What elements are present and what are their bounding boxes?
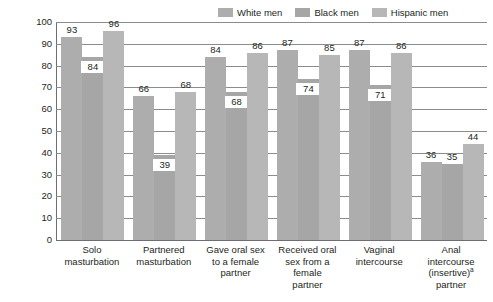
x-axis-category-label: Solomasturbation bbox=[56, 244, 128, 267]
x-axis-category-label: Partneredmasturbation bbox=[128, 244, 200, 267]
bar bbox=[205, 57, 226, 240]
category-label-line: Gave oral sex bbox=[200, 244, 272, 256]
legend-label-hispanic-men: Hispanic men bbox=[391, 8, 449, 18]
x-axis-category-labels: SolomasturbationPartneredmasturbationGav… bbox=[56, 244, 487, 302]
y-tick-label-30: 30 bbox=[41, 170, 52, 180]
bar-group: 877485 bbox=[277, 22, 340, 240]
gridline-0 bbox=[56, 240, 487, 241]
bar-series-layer: 938496663968846886877485877186363544 bbox=[57, 22, 487, 240]
legend-swatch-hispanic-men bbox=[372, 8, 387, 17]
bar-value-label: 93 bbox=[57, 25, 87, 35]
category-label-line: Anal bbox=[415, 244, 487, 256]
legend-label-black-men: Black men bbox=[314, 8, 358, 18]
y-tick-label-90: 90 bbox=[41, 39, 52, 49]
category-label-line: masturbation bbox=[56, 256, 128, 268]
category-label-line: sex from a bbox=[272, 256, 344, 268]
category-label-line: (insertive)a bbox=[415, 267, 487, 279]
y-tick-label-100: 100 bbox=[36, 17, 52, 27]
footnote-marker: a bbox=[470, 266, 474, 273]
legend-item-white-men: White men bbox=[218, 8, 282, 18]
x-axis-category-label: Vaginalintercourse bbox=[343, 244, 415, 267]
legend-item-hispanic-men: Hispanic men bbox=[372, 8, 449, 18]
y-tick-label-80: 80 bbox=[41, 61, 52, 71]
bar-value-label: 86 bbox=[386, 41, 416, 51]
bar-value-label: 96 bbox=[99, 19, 129, 29]
bar-group: 363544 bbox=[421, 22, 484, 240]
bar bbox=[61, 37, 82, 240]
bar bbox=[391, 53, 412, 240]
bar-value-label: 66 bbox=[129, 84, 159, 94]
bar-group: 877186 bbox=[349, 22, 412, 240]
bar-value-label: 84 bbox=[201, 45, 231, 55]
bar-value-label: 44 bbox=[458, 132, 488, 142]
category-label-line: female bbox=[272, 267, 344, 279]
bar-group: 846886 bbox=[205, 22, 268, 240]
bar-value-label: 68 bbox=[171, 80, 201, 90]
legend-label-white-men: White men bbox=[237, 8, 282, 18]
bar bbox=[82, 57, 103, 240]
category-label-line: intercourse bbox=[415, 256, 487, 268]
chart-legend: White men Black men Hispanic men bbox=[218, 8, 448, 18]
bar bbox=[442, 164, 463, 240]
y-tick-label-60: 60 bbox=[41, 104, 52, 114]
category-label-line: masturbation bbox=[128, 256, 200, 268]
y-tick-label-40: 40 bbox=[41, 148, 52, 158]
category-label-line: Received oral bbox=[272, 244, 344, 256]
y-tick-label-0: 0 bbox=[47, 235, 52, 245]
bar-group: 663968 bbox=[133, 22, 196, 240]
bar bbox=[421, 162, 442, 240]
bar bbox=[370, 85, 391, 240]
bar-value-label: 85 bbox=[314, 43, 344, 53]
bar bbox=[103, 31, 124, 240]
bar-value-label: 71 bbox=[368, 89, 392, 101]
bar bbox=[298, 79, 319, 240]
bar bbox=[226, 92, 247, 240]
bar bbox=[175, 92, 196, 240]
legend-swatch-white-men bbox=[218, 8, 233, 17]
y-tick-label-10: 10 bbox=[41, 213, 52, 223]
bar bbox=[247, 53, 268, 240]
bar-chart: White men Black men Hispanic men Percent… bbox=[0, 0, 493, 302]
bar bbox=[349, 50, 370, 240]
category-label-line: Solo bbox=[56, 244, 128, 256]
category-label-line: to a female bbox=[200, 256, 272, 268]
bar-value-label: 87 bbox=[272, 38, 302, 48]
bar-value-label: 68 bbox=[225, 96, 249, 108]
bar bbox=[463, 144, 484, 240]
bar-value-label: 86 bbox=[243, 41, 273, 51]
category-label-line: intercourse bbox=[343, 256, 415, 268]
bar-value-label: 87 bbox=[344, 38, 374, 48]
x-axis-category-label: Received oralsex from afemalepartner bbox=[272, 244, 344, 290]
x-axis-category-label: Analintercourse(insertive)apartner bbox=[415, 244, 487, 290]
category-label-line: Partnered bbox=[128, 244, 200, 256]
bar-value-label: 39 bbox=[153, 159, 177, 171]
category-label-line: partner bbox=[415, 279, 487, 291]
category-label-line: Vaginal bbox=[343, 244, 415, 256]
bar-value-label: 74 bbox=[296, 83, 320, 95]
bar-value-label: 84 bbox=[81, 61, 105, 73]
bar bbox=[277, 50, 298, 240]
bar bbox=[319, 55, 340, 240]
category-label-line: partner bbox=[200, 267, 272, 279]
y-tick-label-50: 50 bbox=[41, 126, 52, 136]
category-label-line: partner bbox=[272, 279, 344, 291]
y-tick-label-70: 70 bbox=[41, 82, 52, 92]
plot-area: 0102030405060708090100 93849666396884688… bbox=[56, 22, 487, 240]
bar-group: 938496 bbox=[61, 22, 124, 240]
x-axis-category-label: Gave oral sexto a femalepartner bbox=[200, 244, 272, 279]
legend-item-black-men: Black men bbox=[295, 8, 358, 18]
legend-swatch-black-men bbox=[295, 8, 310, 17]
y-tick-label-20: 20 bbox=[41, 191, 52, 201]
bar bbox=[133, 96, 154, 240]
